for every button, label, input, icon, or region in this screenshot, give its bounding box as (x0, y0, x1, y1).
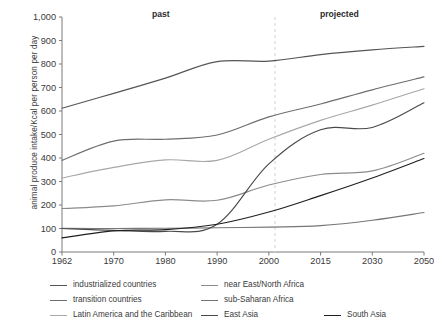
y-tick-label: 600 (41, 106, 56, 116)
x-tick-label: 1990 (207, 256, 227, 266)
x-tick-label: 2015 (310, 256, 330, 266)
x-tick-label: 1980 (155, 256, 175, 266)
y-tick-label: 800 (41, 59, 56, 69)
plot-area: 1,0009008007006005004003002001000 196219… (0, 0, 434, 268)
data-series-group (62, 46, 424, 238)
x-tick-label: 1970 (103, 256, 123, 266)
legend-item[interactable]: Latin America and the Caribbean (50, 308, 192, 323)
legend-item[interactable]: East Asia (201, 308, 304, 323)
legend-label: transition countries (73, 296, 142, 304)
legend-item[interactable]: South Asia (324, 308, 386, 323)
legend-item[interactable]: sub-Saharan Africa (201, 293, 304, 308)
legend-label: Latin America and the Caribbean (73, 311, 192, 319)
y-tick-label: 500 (41, 130, 56, 140)
label-projected: projected (320, 9, 359, 19)
x-tick-label: 1962 (52, 256, 72, 266)
chart-root: animal produce intake/Kcal per person pe… (0, 0, 434, 331)
legend-line-swatch (50, 285, 67, 286)
y-tick-label: 100 (41, 224, 56, 234)
legend-label: sub-Saharan Africa (224, 296, 294, 304)
series-line (62, 89, 424, 178)
x-tick-marks (62, 252, 424, 256)
y-tick-label: 900 (41, 36, 56, 46)
x-tick-labels: 19621970198019902000201520302050 (52, 256, 434, 266)
y-tick-label: 400 (41, 153, 56, 163)
legend-line-swatch (50, 315, 67, 316)
line-chart-svg: 1,0009008007006005004003002001000 196219… (0, 0, 434, 268)
legend-label: East Asia (224, 311, 258, 319)
legend-label: industrialized countries (73, 281, 156, 289)
legend-line-swatch (201, 285, 218, 286)
legend-column-3: South Asia (324, 308, 386, 323)
y-tick-labels: 1,0009008007006005004003002001000 (33, 12, 56, 257)
legend-line-swatch (201, 300, 218, 301)
legend-line-swatch (324, 315, 341, 316)
y-tick-label: 700 (41, 83, 56, 93)
legend-line-swatch (50, 300, 67, 301)
chart-legend: industrialized countriestransition count… (0, 276, 434, 331)
legend-label: near East/North Africa (224, 281, 304, 289)
legend-line-swatch (201, 315, 218, 316)
series-line (62, 213, 424, 229)
legend-item[interactable]: industrialized countries (50, 278, 192, 293)
legend-column-1: industrialized countriestransition count… (50, 278, 192, 323)
series-line (62, 77, 424, 160)
x-tick-label: 2050 (414, 256, 434, 266)
x-tick-label: 2030 (362, 256, 382, 266)
y-tick-label: 1,000 (33, 12, 56, 22)
series-line (62, 158, 424, 237)
y-tick-label: 200 (41, 200, 56, 210)
legend-label: South Asia (347, 311, 386, 319)
legend-item[interactable]: near East/North Africa (201, 278, 304, 293)
series-line (62, 46, 424, 108)
y-tick-label: 300 (41, 177, 56, 187)
series-line (62, 153, 424, 208)
label-past: past (152, 9, 170, 19)
legend-column-2: near East/North Africasub-Saharan Africa… (201, 278, 304, 323)
legend-item[interactable]: transition countries (50, 293, 192, 308)
x-tick-label: 2000 (259, 256, 279, 266)
